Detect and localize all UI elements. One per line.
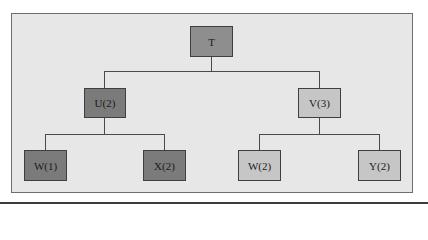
connector-v-stem	[319, 117, 320, 134]
node-x2: X(2)	[143, 150, 186, 181]
connector-root-stem	[211, 56, 212, 71]
node-label: Y(2)	[369, 160, 390, 172]
node-label: T	[208, 36, 215, 48]
node-w2: W(2)	[238, 150, 281, 181]
connector-to-y2	[379, 134, 380, 150]
connector-v-bar	[259, 134, 380, 135]
node-label: U(2)	[95, 97, 116, 109]
connector-to-v	[319, 71, 320, 88]
node-label: V(3)	[309, 97, 330, 109]
node-label: W(1)	[34, 160, 57, 172]
node-u: U(2)	[84, 88, 126, 118]
connector-to-w2	[259, 134, 260, 150]
node-y2: Y(2)	[358, 150, 401, 181]
node-v: V(3)	[298, 88, 341, 118]
node-w1: W(1)	[24, 150, 67, 181]
node-root-t: T	[190, 26, 233, 57]
connector-to-u	[104, 71, 105, 88]
connector-level1-bar	[104, 71, 320, 72]
node-label: X(2)	[154, 160, 175, 172]
connector-to-x2	[164, 134, 165, 150]
node-label: W(2)	[248, 160, 271, 172]
connector-to-w1	[45, 134, 46, 150]
connector-u-stem	[104, 117, 105, 134]
bottom-rule	[0, 202, 428, 204]
connector-u-bar	[45, 134, 165, 135]
